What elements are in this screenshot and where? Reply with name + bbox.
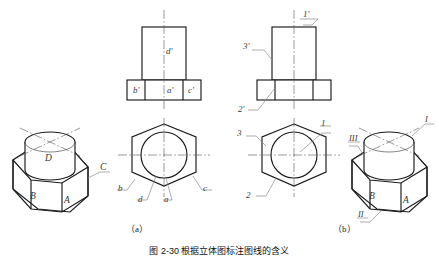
- top-label-3-b: 3: [236, 128, 242, 138]
- drawing-sheet: .obj { fill:none; stroke:#1a1a1a; stroke…: [0, 0, 439, 258]
- front-label-1-prime-b: 1': [303, 9, 311, 19]
- iso-label-III-b: III: [348, 133, 359, 143]
- subfigure-label-a: （a）: [126, 222, 148, 235]
- top-label-b-a: b: [118, 183, 123, 193]
- engineering-drawing-canvas: .obj { fill:none; stroke:#1a1a1a; stroke…: [0, 0, 439, 258]
- iso-label-B-b: B: [369, 191, 375, 201]
- top-label-1-b: 1: [321, 118, 326, 128]
- top-label-a-a: a: [164, 194, 169, 204]
- iso-label-D-a: D: [44, 153, 52, 163]
- top-label-c-a: c: [203, 183, 207, 193]
- front-label-a-prime-a: a': [167, 85, 175, 95]
- front-label-2-prime-b: 2': [238, 104, 246, 114]
- cylinder-body-b: [364, 142, 414, 180]
- subfigure-label-b: （b）: [333, 222, 356, 235]
- figure-caption: 图 2-30 根据立体图标注图线的含义: [0, 244, 439, 258]
- top-label-2-b: 2: [246, 190, 251, 200]
- top-label-d-a: d: [138, 194, 143, 204]
- front-label-3-prime-b: 3': [242, 41, 251, 51]
- iso-label-A-b: A: [402, 195, 409, 205]
- iso-label-C-a: C: [100, 162, 107, 172]
- front-label-b-prime-a: b': [133, 85, 141, 95]
- iso-label-II-b: II: [357, 209, 365, 219]
- iso-label-B-a: B: [30, 191, 36, 201]
- front-label-d-prime-a: d': [166, 46, 174, 56]
- iso-label-A-a: A: [63, 195, 70, 205]
